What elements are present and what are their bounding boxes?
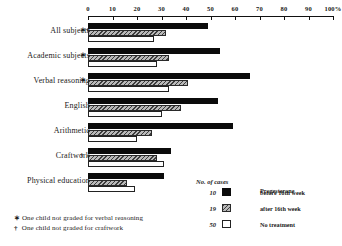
legend-swatch-hatched bbox=[222, 204, 231, 212]
footnote-text: One child not graded for craftwork bbox=[20, 224, 123, 232]
category-footnote-marker: ∗ bbox=[80, 51, 86, 59]
bar-set bbox=[88, 98, 218, 118]
x-axis-tick bbox=[284, 16, 285, 20]
x-axis-tick-label: 10 bbox=[109, 5, 116, 12]
bar-black bbox=[88, 98, 218, 104]
footnote: ∗ One child not graded for verbal reason… bbox=[14, 214, 274, 224]
legend-label: before 16th week bbox=[260, 189, 305, 196]
bar-hatched bbox=[88, 80, 188, 86]
bar-set bbox=[88, 173, 164, 193]
bar-hatched bbox=[88, 130, 152, 136]
bar-set bbox=[88, 73, 250, 93]
bar-group: All subjects∗† bbox=[0, 22, 342, 47]
category-footnote-marker: † bbox=[80, 151, 83, 159]
category-label: Arithmetic bbox=[0, 126, 90, 135]
x-axis-tick-label: 40 bbox=[183, 5, 190, 12]
category-label: Craftwork bbox=[0, 151, 90, 160]
bar-white bbox=[88, 161, 164, 167]
bar-hatched bbox=[88, 180, 127, 186]
bar-hatched bbox=[88, 55, 169, 61]
bar-white bbox=[88, 61, 157, 67]
x-axis-tick-label: 30 bbox=[158, 5, 165, 12]
footnotes: ∗ One child not graded for verbal reason… bbox=[14, 214, 274, 233]
x-axis-tick bbox=[260, 16, 261, 20]
bar-black bbox=[88, 73, 250, 79]
bar-group: Craftwork† bbox=[0, 147, 342, 172]
category-label: All subjects bbox=[0, 26, 90, 35]
x-axis-tick bbox=[333, 16, 334, 20]
x-axis-tick-label: 70 bbox=[256, 5, 263, 12]
legend-case-count: 10 bbox=[202, 189, 216, 196]
category-label: Verbal reasoning bbox=[0, 76, 90, 85]
category-label: Academic subjects bbox=[0, 51, 90, 60]
legend-label: after 16th week bbox=[260, 205, 301, 212]
legend-swatch-black bbox=[222, 188, 231, 196]
x-axis-tick-label: 100% bbox=[324, 5, 341, 12]
bar-hatched bbox=[88, 155, 157, 161]
bar-hatched bbox=[88, 105, 181, 111]
bar-rows: All subjects∗†Academic subjects∗Verbal r… bbox=[0, 22, 342, 197]
bar-white bbox=[88, 136, 137, 142]
x-axis-tick bbox=[88, 16, 89, 20]
x-axis-tick bbox=[211, 16, 212, 20]
x-axis-tick-label: 50 bbox=[207, 5, 214, 12]
legend-title: No. of cases bbox=[196, 178, 228, 185]
bar-white bbox=[88, 186, 135, 192]
legend-item: 10before 16th week bbox=[196, 187, 342, 199]
x-axis-tick-label: 60 bbox=[232, 5, 239, 12]
x-axis-tick-label: 20 bbox=[134, 5, 141, 12]
x-axis: 0102030405060708090100% bbox=[88, 16, 333, 17]
bar-chart: 0102030405060708090100% All subjects∗†Ac… bbox=[0, 0, 342, 246]
bar-white bbox=[88, 111, 162, 117]
bar-set bbox=[88, 23, 208, 43]
x-axis-tick-label: 90 bbox=[305, 5, 312, 12]
x-axis-tick bbox=[113, 16, 114, 20]
bar-set bbox=[88, 148, 171, 168]
x-axis-tick bbox=[186, 16, 187, 20]
footnote: † One child not graded for craftwork bbox=[14, 224, 274, 234]
bar-black bbox=[88, 23, 208, 29]
bar-white bbox=[88, 86, 169, 92]
bar-set bbox=[88, 123, 233, 143]
bar-black bbox=[88, 123, 233, 129]
bar-black bbox=[88, 148, 171, 154]
legend-case-count: 19 bbox=[202, 205, 216, 212]
footnote-text: One child not graded for verbal reasonin… bbox=[20, 214, 143, 222]
x-axis-tick-label: 80 bbox=[281, 5, 288, 12]
bar-group: English bbox=[0, 97, 342, 122]
category-label: English bbox=[0, 101, 90, 110]
bar-hatched bbox=[88, 30, 166, 36]
bar-group: Verbal reasoning∗ bbox=[0, 72, 342, 97]
x-axis-tick bbox=[137, 16, 138, 20]
category-footnote-marker: ∗ bbox=[80, 76, 86, 84]
bar-set bbox=[88, 48, 220, 68]
bar-black bbox=[88, 48, 220, 54]
bar-group: Academic subjects∗ bbox=[0, 47, 342, 72]
bar-group: Arithmetic bbox=[0, 122, 342, 147]
bar-black bbox=[88, 173, 164, 179]
category-label: Physical education bbox=[0, 176, 90, 185]
bar-white bbox=[88, 36, 154, 42]
x-axis-tick-label: 0 bbox=[86, 5, 89, 12]
x-axis-tick bbox=[235, 16, 236, 20]
x-axis-tick bbox=[162, 16, 163, 20]
x-axis-tick bbox=[309, 16, 310, 20]
